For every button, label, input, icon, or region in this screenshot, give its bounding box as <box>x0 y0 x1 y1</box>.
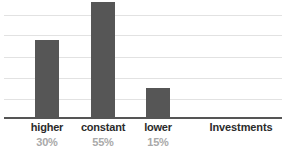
category-labels-row: higherconstantlower Investments <box>0 119 286 135</box>
category-label-lower: lower <box>128 119 188 135</box>
bar-higher[interactable] <box>35 40 59 118</box>
percent-label-constant: 55% <box>73 134 133 150</box>
bar-chart: higherconstantlower Investments 30%55%15… <box>0 0 286 151</box>
percent-label-higher: 30% <box>17 134 77 150</box>
percent-label-lower: 15% <box>128 134 188 150</box>
percent-labels-row: 30%55%15% <box>0 134 286 151</box>
category-label-higher: higher <box>17 119 77 135</box>
gridline <box>4 15 282 16</box>
gridline <box>4 35 282 36</box>
bar-lower[interactable] <box>146 88 170 118</box>
bar-constant[interactable] <box>91 2 115 118</box>
x-axis-title: Investments <box>196 119 286 135</box>
plot-area <box>0 0 286 119</box>
category-label-constant: constant <box>73 119 133 135</box>
